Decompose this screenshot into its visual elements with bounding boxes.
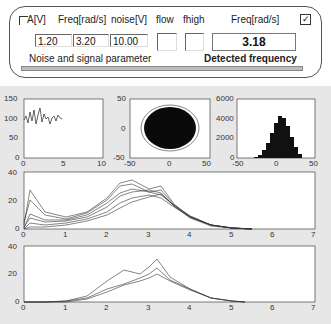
- svg-text:20: 20: [8, 196, 17, 205]
- svg-text:4: 4: [187, 230, 192, 239]
- svg-text:-50: -50: [124, 159, 136, 168]
- svg-text:0: 0: [21, 230, 26, 239]
- flow-input[interactable]: [157, 33, 177, 51]
- svg-text:7: 7: [311, 303, 316, 312]
- svg-text:50: 50: [309, 159, 318, 168]
- noise-histogram-plot: 6000400020000 -50050: [216, 94, 318, 168]
- spectra-plot: 40200 0123 4567: [8, 168, 316, 239]
- progress-bar: [21, 66, 303, 71]
- svg-text:0: 0: [21, 303, 26, 312]
- svg-text:6: 6: [270, 303, 275, 312]
- detected-frequency-section-label: Detected frequency: [204, 53, 297, 64]
- svg-text:6000: 6000: [216, 94, 234, 103]
- svg-text:40: 40: [8, 168, 17, 177]
- svg-text:0: 0: [21, 159, 26, 168]
- svg-text:7: 7: [311, 230, 316, 239]
- svg-text:50: 50: [202, 159, 211, 168]
- detected-freq-label: Freq[rad/s]: [231, 14, 279, 25]
- svg-text:3: 3: [146, 303, 151, 312]
- svg-text:0: 0: [167, 159, 172, 168]
- svg-text:2: 2: [104, 230, 109, 239]
- svg-text:6: 6: [270, 230, 275, 239]
- plots: 150100500 0510 500-50 -50050 60004000200…: [0, 86, 331, 324]
- signal-plot: 150100500 0510: [4, 94, 106, 168]
- detected-frequency-value: 3.18: [212, 33, 296, 51]
- svg-text:0: 0: [121, 124, 126, 133]
- noise-input[interactable]: 10.00: [110, 34, 148, 47]
- svg-text:50: 50: [117, 94, 126, 103]
- svg-text:1: 1: [63, 230, 68, 239]
- freq-label: Freq[rad/s]: [58, 14, 106, 25]
- enable-checkbox[interactable]: ✓: [300, 14, 311, 25]
- svg-text:0: 0: [15, 224, 20, 233]
- noise-label: noise[V]: [111, 14, 147, 25]
- svg-text:5: 5: [229, 303, 234, 312]
- figure-area: 150100500 0510 500-50 -50050 60004000200…: [0, 86, 331, 324]
- svg-text:5: 5: [229, 230, 234, 239]
- svg-text:-50: -50: [232, 159, 244, 168]
- svg-text:0: 0: [15, 153, 20, 162]
- svg-text:50: 50: [9, 133, 18, 142]
- svg-text:20: 20: [8, 269, 17, 278]
- noise-signal-section-label: Noise and signal parameter: [29, 53, 151, 64]
- averaged-spectra-plot: 40200 0123 4567: [8, 242, 316, 312]
- freq-input[interactable]: 3.20: [73, 34, 109, 47]
- fhigh-label: fhigh: [183, 14, 205, 25]
- fhigh-input[interactable]: [185, 33, 204, 51]
- svg-text:0: 0: [274, 159, 279, 168]
- svg-text:3: 3: [146, 230, 151, 239]
- svg-text:100: 100: [4, 114, 18, 123]
- amp-label: A[V]: [27, 14, 46, 25]
- svg-text:40: 40: [8, 242, 17, 251]
- svg-text:4000: 4000: [216, 114, 234, 123]
- svg-text:2: 2: [104, 303, 109, 312]
- svg-text:150: 150: [4, 94, 18, 103]
- svg-text:1: 1: [63, 303, 68, 312]
- amp-input[interactable]: 1.20: [35, 34, 72, 47]
- svg-text:5: 5: [61, 159, 66, 168]
- svg-text:2000: 2000: [216, 133, 234, 142]
- svg-text:0: 0: [15, 297, 20, 306]
- noise-scatter-plot: 500-50 -50050: [113, 94, 211, 168]
- svg-text:10: 10: [97, 159, 106, 168]
- flow-label: flow: [156, 14, 174, 25]
- svg-text:4: 4: [187, 303, 192, 312]
